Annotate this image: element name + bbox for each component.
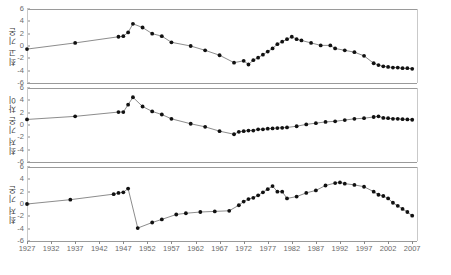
data-point: [247, 63, 251, 67]
x-tick-label: 1972: [235, 245, 252, 253]
data-point: [117, 35, 121, 39]
x-tick-label: 1967: [211, 245, 228, 253]
data-point: [174, 213, 178, 217]
data-point: [386, 116, 390, 120]
x-tick-label: 1942: [91, 245, 108, 253]
data-point: [189, 122, 193, 126]
x-tick-label: 1927: [19, 245, 36, 253]
y-tick-label: -4: [17, 146, 24, 154]
data-point: [261, 127, 265, 131]
data-point: [112, 192, 116, 196]
data-point: [242, 59, 246, 63]
series-line: [27, 182, 412, 228]
data-point: [275, 126, 279, 130]
data-point: [136, 226, 140, 230]
chart-panel-1: 6420-2-4-6: [27, 9, 417, 83]
y-tick-label: 2: [20, 30, 24, 38]
data-point: [405, 118, 409, 122]
data-point: [213, 210, 217, 214]
data-point: [237, 130, 241, 134]
data-point: [396, 66, 400, 70]
x-tick-label: 1982: [283, 245, 300, 253]
x-tick-label: 1962: [187, 245, 204, 253]
data-point: [121, 34, 125, 38]
data-point: [353, 183, 357, 187]
climate-trend-chart: 최고 기온6420-2-4-6최저 기온 차이6420-2-4-6최저 기온64…: [0, 0, 451, 275]
data-point: [343, 182, 347, 186]
y-tick-label: 2: [20, 109, 24, 117]
data-point: [141, 26, 145, 30]
data-point: [401, 207, 405, 211]
data-point: [401, 117, 405, 121]
data-point: [218, 53, 222, 57]
data-point: [271, 184, 275, 188]
data-point: [203, 48, 207, 52]
data-point: [256, 127, 260, 131]
data-point: [304, 122, 308, 126]
data-point: [275, 190, 279, 194]
x-tick-label: 1952: [139, 245, 156, 253]
y-tick-label: 6: [20, 5, 24, 13]
data-point: [372, 115, 376, 119]
data-point: [232, 61, 236, 65]
data-point: [160, 218, 164, 222]
data-point: [170, 117, 174, 121]
data-point: [117, 110, 121, 114]
data-point: [309, 41, 313, 45]
data-point: [232, 132, 236, 136]
y-tick-label: 0: [20, 200, 24, 208]
data-point: [227, 209, 231, 213]
data-point: [410, 67, 414, 71]
data-point: [285, 37, 289, 41]
data-point: [198, 210, 202, 214]
data-point: [280, 126, 284, 130]
data-point: [295, 37, 299, 41]
x-tick-label: 2007: [404, 245, 421, 253]
y-tick-label: 0: [20, 42, 24, 50]
data-point: [285, 197, 289, 201]
data-point: [126, 31, 130, 35]
data-point: [333, 47, 337, 51]
data-point: [319, 43, 323, 47]
y-tick-label: -2: [17, 55, 24, 63]
chart-panel-2: 6420-2-4-6: [27, 88, 417, 162]
data-point: [377, 193, 381, 197]
y-tick-label: 0: [20, 121, 24, 129]
data-point: [353, 50, 357, 54]
data-point: [304, 191, 308, 195]
data-point: [386, 65, 390, 69]
data-point: [251, 196, 255, 200]
y-tick-label: -4: [17, 225, 24, 233]
x-tick-label: 1957: [163, 245, 180, 253]
y-tick-label: 4: [20, 97, 24, 105]
data-point: [391, 117, 395, 121]
data-point: [280, 40, 284, 44]
data-point: [266, 187, 270, 191]
data-point: [343, 48, 347, 52]
series-line: [27, 24, 412, 69]
y-tick-label: -2: [17, 134, 24, 142]
data-point: [184, 211, 188, 215]
x-tick-label: 1977: [259, 245, 276, 253]
data-point: [242, 129, 246, 133]
data-point: [256, 56, 260, 60]
data-point: [121, 190, 125, 194]
data-point: [251, 58, 255, 62]
data-point: [391, 201, 395, 205]
x-tick-label: 2002: [380, 245, 397, 253]
data-point: [377, 63, 381, 67]
x-tick-label: 1947: [115, 245, 132, 253]
data-point: [381, 116, 385, 120]
data-point: [150, 221, 154, 225]
data-point: [410, 214, 414, 218]
data-point: [189, 44, 193, 48]
data-point: [160, 113, 164, 117]
data-point: [391, 66, 395, 70]
data-point: [381, 64, 385, 68]
data-point: [73, 41, 77, 45]
data-point: [25, 47, 29, 51]
data-point: [290, 35, 294, 39]
data-point: [405, 66, 409, 70]
data-point: [261, 53, 265, 57]
data-point: [275, 42, 279, 46]
